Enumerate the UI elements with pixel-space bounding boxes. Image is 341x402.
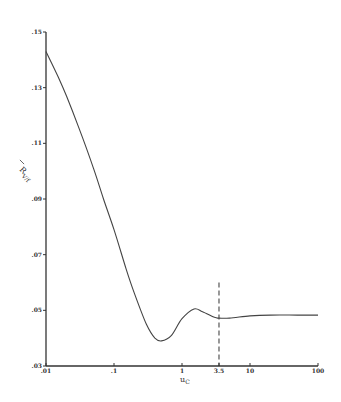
x-tick-label: 100 [312, 367, 325, 374]
svg-text:uC: uC [180, 375, 190, 385]
svg-text:RV/f: RV/f [16, 165, 35, 184]
x-tick-label: .1 [111, 367, 117, 374]
y-tick-label: .07 [32, 251, 42, 258]
x-axis-label: uC [180, 375, 190, 385]
y-tick-label: .15 [32, 28, 42, 35]
y-tick-label: .09 [32, 195, 42, 202]
y-tick-label: .05 [32, 306, 42, 313]
x-tick-label: 1 [180, 367, 184, 374]
x-tick-label: 10 [246, 367, 254, 374]
x-tick-label: 3.5 [214, 367, 224, 374]
data-series-line [46, 52, 318, 342]
y-tick-label: .13 [32, 84, 42, 91]
x-tick-label: .01 [41, 367, 51, 374]
y-axis: .15.13.11.09.07.05.03 [32, 28, 46, 369]
x-axis: .01.113.510100 [41, 363, 324, 374]
ylabel-bar [20, 160, 24, 164]
y-tick-label: .11 [32, 139, 42, 146]
y-axis-label: RV/f [16, 165, 35, 184]
line-chart: .15.13.11.09.07.05.03 .01.113.510100 RV/… [0, 0, 341, 402]
